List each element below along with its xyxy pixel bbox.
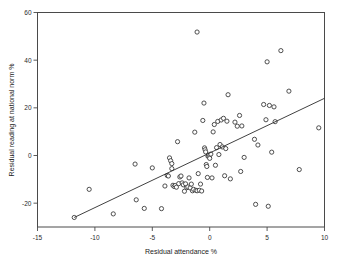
data-point — [205, 164, 209, 168]
data-point — [198, 182, 202, 186]
y-tick-label: -20 — [22, 200, 32, 207]
data-point — [264, 118, 268, 122]
data-point — [202, 101, 206, 105]
data-point — [226, 93, 230, 97]
data-point — [267, 103, 271, 107]
data-point — [279, 49, 283, 53]
data-point — [210, 176, 214, 180]
data-point — [205, 175, 209, 179]
data-point — [142, 206, 146, 210]
y-tick-label: 40 — [24, 57, 32, 64]
data-point — [211, 130, 215, 134]
data-point — [256, 143, 260, 147]
data-point — [208, 156, 212, 160]
data-point — [193, 130, 197, 134]
x-tick-label: 10 — [321, 234, 329, 241]
x-tick-label: -15 — [33, 234, 43, 241]
data-point — [159, 207, 163, 211]
data-point — [254, 202, 258, 206]
data-point — [201, 118, 205, 122]
data-point — [212, 122, 216, 126]
data-point — [195, 30, 199, 34]
data-point — [262, 102, 266, 106]
data-point — [163, 184, 167, 188]
data-point — [237, 113, 241, 117]
x-axis-title: Residual attendance % — [145, 248, 217, 255]
y-tick-label: 60 — [24, 9, 32, 16]
y-tick-label: 20 — [24, 104, 32, 111]
data-point — [175, 140, 179, 144]
data-point — [233, 120, 237, 124]
data-point — [133, 162, 137, 166]
data-point — [272, 105, 276, 109]
plot-canvas: -200204060 -15-10-50510 Residual attenda… — [0, 0, 340, 262]
data-point — [150, 166, 154, 170]
data-point — [270, 150, 274, 154]
data-point — [187, 176, 191, 180]
x-tick-label: 5 — [265, 234, 269, 241]
y-tick-label: 0 — [28, 152, 32, 159]
data-point — [287, 89, 291, 93]
data-point — [225, 119, 229, 123]
data-point — [189, 182, 193, 186]
data-point — [228, 177, 232, 181]
data-point — [252, 137, 256, 141]
data-point — [200, 189, 204, 193]
y-axis-title: Residual reading at national norm % — [8, 64, 16, 177]
data-point — [240, 124, 244, 128]
data-point — [111, 212, 115, 216]
data-point — [196, 172, 200, 176]
x-tick-label: 0 — [208, 234, 212, 241]
data-point — [265, 60, 269, 64]
data-point — [266, 204, 270, 208]
data-point — [297, 167, 301, 171]
x-tick-label: -10 — [90, 234, 100, 241]
data-point — [223, 174, 227, 178]
data-point — [242, 155, 246, 159]
data-point — [317, 126, 321, 130]
plot-background — [0, 0, 340, 262]
data-point — [170, 162, 174, 166]
scatter-plot-figure: -200204060 -15-10-50510 Residual attenda… — [0, 0, 340, 262]
data-point — [224, 146, 228, 150]
data-point — [166, 174, 170, 178]
data-point — [235, 124, 239, 128]
data-point — [134, 198, 138, 202]
data-point — [87, 187, 91, 191]
data-point — [217, 152, 221, 156]
x-tick-label: -5 — [149, 234, 155, 241]
data-point — [179, 174, 183, 178]
data-point — [239, 169, 243, 173]
data-point — [213, 163, 217, 167]
